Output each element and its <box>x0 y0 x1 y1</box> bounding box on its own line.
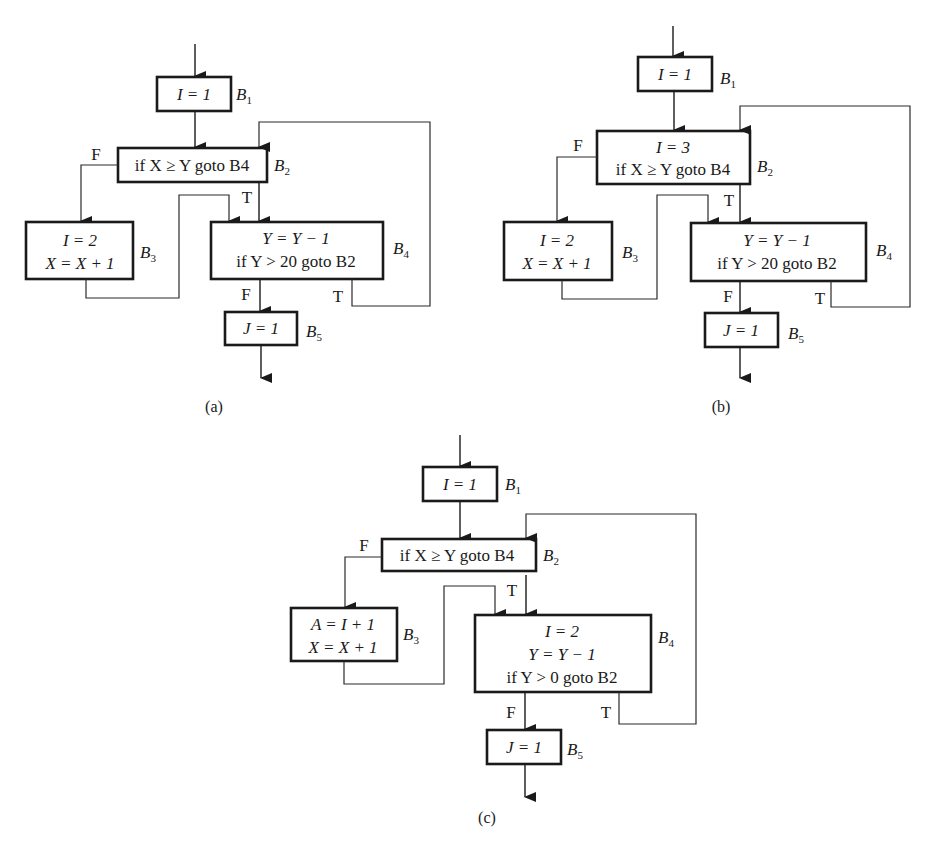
b4-true-label: T <box>333 287 344 306</box>
b2-false-edge <box>81 165 118 221</box>
block-b3: I = 2 X = X + 1 B3 <box>504 222 638 280</box>
block-b2-line-1: I = 3 <box>655 138 690 157</box>
block-b4-line-2: if Y > 20 goto B2 <box>236 252 355 271</box>
block-b5: J = 1 B5 <box>705 313 804 347</box>
block-b1: I = 1 B1 <box>638 57 736 91</box>
block-b3-line-1: I = 2 <box>539 231 575 250</box>
block-b5: J = 1 B5 <box>487 730 583 764</box>
panel-b: I = 1 B1 I = 3 if X ≥ Y goto B4 B2 F T I… <box>504 26 910 416</box>
block-b2-label: B2 <box>757 157 773 178</box>
block-b5-line-1: J = 1 <box>723 321 759 340</box>
b2-true-label: T <box>242 188 253 207</box>
flowgraph-figure: I = 1 B1 if X ≥ Y goto B4 B2 F T I = 2 X… <box>0 0 929 844</box>
block-b4-label: B4 <box>393 239 409 260</box>
block-b1: I = 1 B1 <box>423 467 521 501</box>
b2-true-label: T <box>507 581 518 600</box>
block-b3-line-2: X = X + 1 <box>521 254 591 273</box>
block-b3-label: B3 <box>140 243 156 264</box>
block-b4-label: B4 <box>658 628 674 649</box>
block-b4-line-1: Y = Y − 1 <box>743 231 810 250</box>
block-b5-label: B5 <box>306 322 322 343</box>
block-b4-line-1: Y = Y − 1 <box>262 229 329 248</box>
block-b1-line-1: I = 1 <box>442 475 477 494</box>
b2-false-label: F <box>91 145 100 164</box>
block-b1-line-1: I = 1 <box>176 85 211 104</box>
block-b3: A = I + 1 X = X + 1 B3 <box>291 608 419 661</box>
b4-true-label: T <box>815 289 826 308</box>
block-b2-line-1: if X ≥ Y goto B4 <box>135 156 250 175</box>
block-b2-line-2: if X ≥ Y goto B4 <box>616 160 731 179</box>
block-b3-line-1: I = 2 <box>62 231 98 250</box>
block-b4-line-1: I = 2 <box>544 622 580 641</box>
block-b3-label: B3 <box>622 243 638 264</box>
block-b4: Y = Y − 1 if Y > 20 goto B2 B4 <box>691 223 892 281</box>
block-b3-line-1: A = I + 1 <box>310 615 375 634</box>
block-b1-label: B1 <box>505 475 521 496</box>
block-b2-line-1: if X ≥ Y goto B4 <box>400 546 515 565</box>
block-b5: J = 1 B5 <box>225 312 322 345</box>
block-b2: if X ≥ Y goto B4 B2 <box>118 148 290 182</box>
panel-b-caption: (b) <box>712 398 731 416</box>
block-b5-line-1: J = 1 <box>243 319 279 338</box>
block-b1-label: B1 <box>720 69 736 90</box>
block-b2-label: B2 <box>543 546 559 567</box>
block-b1-label: B1 <box>236 85 252 106</box>
b2-true-label: T <box>724 191 735 210</box>
block-b4: I = 2 Y = Y − 1 if Y > 0 goto B2 B4 <box>475 615 674 692</box>
panel-a: I = 1 B1 if X ≥ Y goto B4 B2 F T I = 2 X… <box>26 44 430 416</box>
block-b3: I = 2 X = X + 1 B3 <box>26 222 156 279</box>
block-b4-label: B4 <box>876 241 892 262</box>
panel-c-caption: (c) <box>478 809 496 827</box>
block-b3-label: B3 <box>403 625 419 646</box>
block-b2: if X ≥ Y goto B4 B2 <box>382 539 559 571</box>
block-b5-label: B5 <box>567 740 583 761</box>
block-b3-line-2: X = X + 1 <box>307 638 377 657</box>
block-b4-line-2: Y = Y − 1 <box>528 645 595 664</box>
b4-true-label: T <box>601 703 612 722</box>
b4-false-label: F <box>723 287 732 306</box>
block-b4-line-2: if Y > 20 goto B2 <box>717 254 836 273</box>
b2-false-label: F <box>359 536 368 555</box>
b2-false-edge <box>345 557 382 607</box>
panel-a-caption: (a) <box>205 398 223 416</box>
block-b1: I = 1 B1 <box>157 77 252 111</box>
block-b4-line-3: if Y > 0 goto B2 <box>507 668 618 687</box>
block-b2-label: B2 <box>274 156 290 177</box>
b4-false-label: F <box>506 703 515 722</box>
block-b3-line-2: X = X + 1 <box>44 254 114 273</box>
panel-c: I = 1 B1 if X ≥ Y goto B4 B2 F T A = I +… <box>291 435 696 827</box>
b4-false-label: F <box>241 285 250 304</box>
block-b5-label: B5 <box>788 324 804 345</box>
block-b4: Y = Y − 1 if Y > 20 goto B2 B4 <box>211 222 409 279</box>
b2-false-edge <box>557 157 597 221</box>
block-b2: I = 3 if X ≥ Y goto B4 B2 <box>597 131 773 184</box>
block-b1-line-1: I = 1 <box>657 65 692 84</box>
block-b5-line-1: J = 1 <box>506 738 542 757</box>
b2-false-label: F <box>573 136 582 155</box>
